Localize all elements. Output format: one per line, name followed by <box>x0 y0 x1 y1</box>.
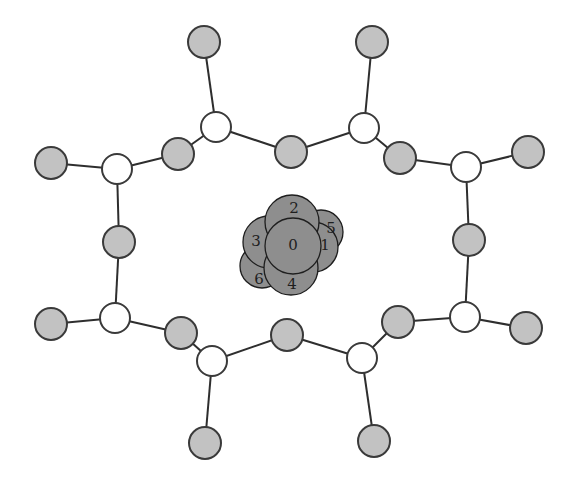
ring-gray-atom <box>384 142 416 174</box>
terminal-gray-atom <box>356 26 388 58</box>
ring-gray-atom <box>165 317 197 349</box>
ring-white-atom <box>102 154 132 184</box>
ring-white-atom <box>349 113 379 143</box>
ring-gray-atom <box>162 138 194 170</box>
ring-white-atom <box>347 343 377 373</box>
ring-white-atom <box>450 302 480 332</box>
terminal-gray-atom <box>510 312 542 344</box>
ring-white-atom <box>451 152 481 182</box>
ring-gray-atom <box>103 226 135 258</box>
ring-gray-atom <box>275 136 307 168</box>
ring-white-atom <box>100 303 130 333</box>
ring-white-atom <box>197 346 227 376</box>
cluster-sphere-label: 5 <box>326 219 336 237</box>
cluster-sphere-label: 4 <box>287 275 297 293</box>
ring-gray-atom <box>382 306 414 338</box>
cluster-sphere-label: 6 <box>254 270 264 288</box>
terminal-gray-atom <box>358 425 390 457</box>
molecular-ring-diagram: 5613240 <box>0 0 574 486</box>
ring-gray-atom <box>453 224 485 256</box>
cluster-sphere-label: 1 <box>320 236 330 254</box>
cluster-sphere-label: 3 <box>251 232 261 250</box>
terminal-gray-atom <box>35 308 67 340</box>
terminal-gray-atom <box>512 136 544 168</box>
ring-gray-atom <box>271 319 303 351</box>
terminal-gray-atom <box>189 427 221 459</box>
terminal-gray-atom <box>188 26 220 58</box>
terminal-gray-atom <box>35 147 67 179</box>
central-ion-cluster: 5613240 <box>240 195 343 295</box>
cluster-sphere-label: 0 <box>288 236 298 254</box>
cluster-sphere-label: 2 <box>289 199 299 217</box>
ring-white-atom <box>201 112 231 142</box>
